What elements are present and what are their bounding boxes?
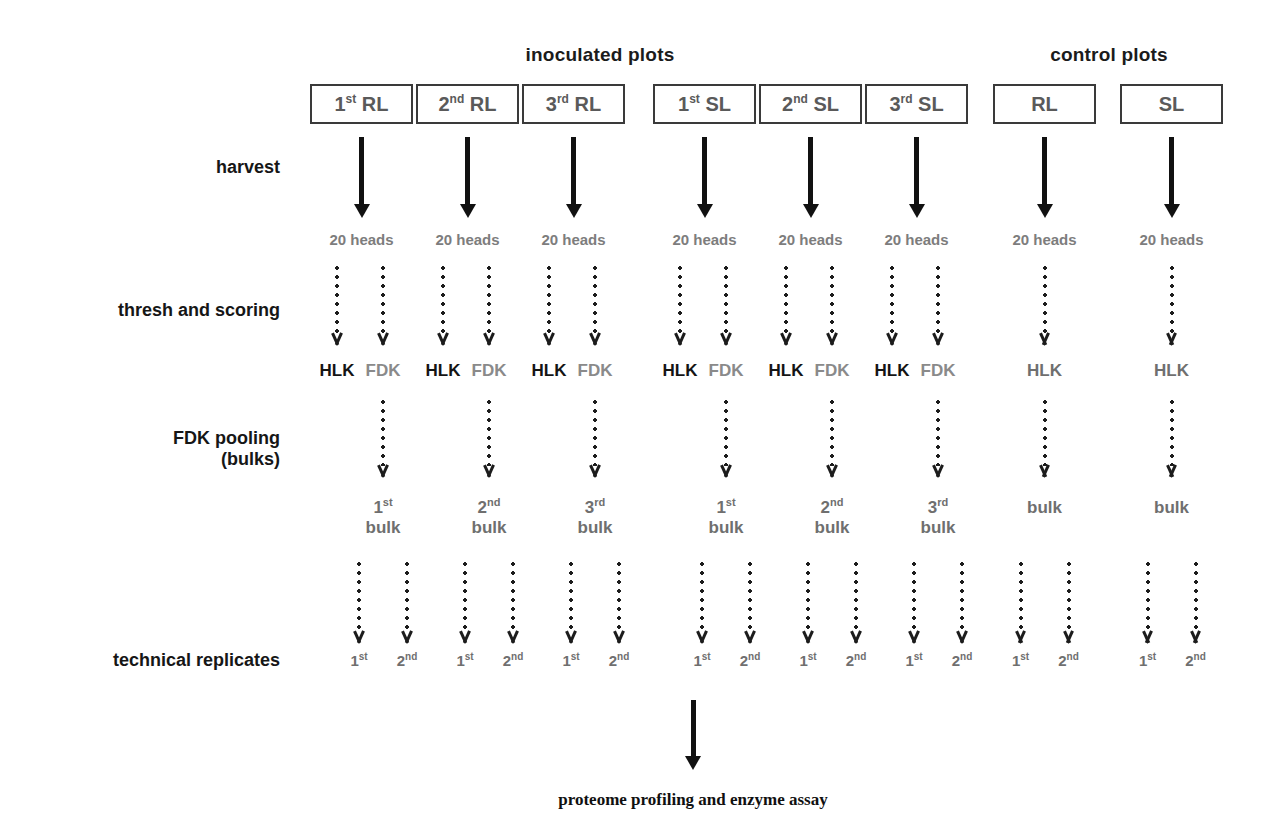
group-header-inoculated-plots: inoculated plots <box>440 44 760 66</box>
replicate-arrow-rl2-2 <box>501 562 525 644</box>
bulk-label-ctrl_sl: bulk <box>1112 498 1232 518</box>
replicate-arrow-ctrl_rl-2 <box>1057 562 1081 644</box>
replicate-arrow-rl2-1 <box>453 562 477 644</box>
pooling-arrow-rl1 <box>371 400 395 478</box>
thresh-arrow-sl3-fdk <box>926 266 950 346</box>
group-header-control-plots: control plots <box>989 44 1229 66</box>
replicate-label-sl2-2: 2nd <box>826 652 886 670</box>
replicate-arrow-sl2-2 <box>844 562 868 644</box>
bulk-label-rl2: 2ndbulk <box>429 498 549 537</box>
replicate-arrow-sl1-1 <box>690 562 714 644</box>
pooling-arrow-ctrl_sl <box>1160 400 1184 478</box>
thresh-arrow-ctrl_sl-hlk <box>1160 266 1184 346</box>
thresh-arrow-sl3-hlk <box>880 266 904 346</box>
thresh-arrow-sl1-fdk <box>714 266 738 346</box>
replicate-arrow-sl2-1 <box>796 562 820 644</box>
replicate-arrow-rl3-2 <box>607 562 631 644</box>
replicate-arrow-rl1-1 <box>347 562 371 644</box>
fraction-label-rl3-fdk: FDK <box>555 361 635 381</box>
plot-box-rl2[interactable]: 2nd RL <box>416 84 519 124</box>
pooling-arrow-ctrl_rl <box>1033 400 1057 478</box>
heads-label-sl3: 20 heads <box>847 231 987 249</box>
thresh-arrow-sl1-hlk <box>668 266 692 346</box>
thresh-arrow-sl2-hlk <box>774 266 798 346</box>
replicate-arrow-ctrl_sl-1 <box>1136 562 1160 644</box>
row-label-technical-replicates: technical replicates <box>30 650 280 671</box>
fraction-label-ctrl_sl-hlk: HLK <box>1112 361 1232 381</box>
thresh-arrow-rl2-hlk <box>431 266 455 346</box>
replicate-label-sl1-2: 2nd <box>720 652 780 670</box>
plot-box-sl2[interactable]: 2nd SL <box>759 84 862 124</box>
pooling-arrow-sl1 <box>714 400 738 478</box>
replicate-arrow-sl1-2 <box>738 562 762 644</box>
replicate-arrow-sl3-1 <box>902 562 926 644</box>
replicate-label-sl3-2: 2nd <box>932 652 992 670</box>
fraction-label-ctrl_rl-hlk: HLK <box>985 361 1105 381</box>
bulk-label-sl3: 3rdbulk <box>878 498 998 537</box>
harvest-arrow-rl3 <box>559 137 589 219</box>
plot-box-rl1[interactable]: 1st RL <box>310 84 413 124</box>
thresh-arrow-rl1-hlk <box>325 266 349 346</box>
harvest-arrow-sl3 <box>902 137 932 219</box>
harvest-arrow-ctrl_sl <box>1157 137 1187 219</box>
plot-box-rl3[interactable]: 3rd RL <box>522 84 625 124</box>
harvest-arrow-rl2 <box>453 137 483 219</box>
harvest-arrow-sl2 <box>796 137 826 219</box>
plot-box-ctrl_rl[interactable]: RL <box>993 84 1096 124</box>
plot-box-sl1[interactable]: 1st SL <box>653 84 756 124</box>
heads-label-rl3: 20 heads <box>504 231 644 249</box>
replicate-arrow-ctrl_sl-2 <box>1184 562 1208 644</box>
replicate-label-rl3-2: 2nd <box>589 652 649 670</box>
replicate-arrow-rl3-1 <box>559 562 583 644</box>
harvest-arrow-sl1 <box>690 137 720 219</box>
plot-box-ctrl_sl[interactable]: SL <box>1120 84 1223 124</box>
pooling-arrow-rl2 <box>477 400 501 478</box>
thresh-arrow-ctrl_rl-hlk <box>1033 266 1057 346</box>
plot-box-sl3[interactable]: 3rd SL <box>865 84 968 124</box>
row-label-harvest: harvest <box>30 157 280 178</box>
replicate-label-rl2-2: 2nd <box>483 652 543 670</box>
bulk-label-sl1: 1stbulk <box>666 498 786 537</box>
replicate-label-rl1-2: 2nd <box>377 652 437 670</box>
replicate-label-ctrl_sl-2: 2nd <box>1166 652 1226 670</box>
bulk-label-rl3: 3rdbulk <box>535 498 655 537</box>
replicate-arrow-rl1-2 <box>395 562 419 644</box>
row-label-thresh-and-scoring: thresh and scoring <box>30 300 280 321</box>
footer-proteome-profiling-label: proteome profiling and enzyme assay <box>443 790 943 810</box>
final-solid-arrow <box>678 700 708 772</box>
pooling-arrow-sl3 <box>926 400 950 478</box>
bulk-label-rl1: 1stbulk <box>323 498 443 537</box>
thresh-arrow-rl3-hlk <box>537 266 561 346</box>
heads-label-ctrl_rl: 20 heads <box>975 231 1115 249</box>
harvest-arrow-ctrl_rl <box>1030 137 1060 219</box>
pooling-arrow-sl2 <box>820 400 844 478</box>
heads-label-ctrl_sl: 20 heads <box>1102 231 1242 249</box>
bulk-label-sl2: 2ndbulk <box>772 498 892 537</box>
thresh-arrow-rl2-fdk <box>477 266 501 346</box>
flowchart-canvas: inoculated plots control plots harvest t… <box>0 0 1283 839</box>
harvest-arrow-rl1 <box>347 137 377 219</box>
replicate-arrow-sl3-2 <box>950 562 974 644</box>
replicate-arrow-ctrl_rl-1 <box>1009 562 1033 644</box>
pooling-arrow-rl3 <box>583 400 607 478</box>
thresh-arrow-rl1-fdk <box>371 266 395 346</box>
thresh-arrow-rl3-fdk <box>583 266 607 346</box>
bulk-label-ctrl_rl: bulk <box>985 498 1105 518</box>
thresh-arrow-sl2-fdk <box>820 266 844 346</box>
replicate-label-ctrl_rl-2: 2nd <box>1039 652 1099 670</box>
fraction-label-sl3-fdk: FDK <box>898 361 978 381</box>
row-label-fdk-pooling: FDK pooling (bulks) <box>30 428 280 470</box>
